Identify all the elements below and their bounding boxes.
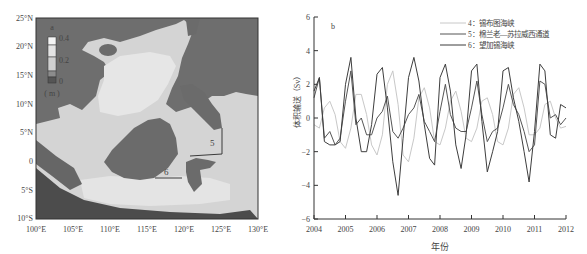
colorbar-upper	[48, 45, 56, 57]
legend-label-4: 4：锡布图海峡	[468, 18, 515, 28]
y-tick-label: 2	[306, 80, 310, 89]
colorbar-tick-0: 0	[59, 77, 63, 86]
lat-tick: 10°N	[16, 100, 33, 109]
colorbar-low	[48, 71, 56, 77]
y-axis-label: 体积输送（Sv）	[292, 72, 302, 128]
y-tick-label: 4	[306, 47, 310, 56]
series-lines	[314, 57, 566, 195]
y-tick-label: −4	[301, 181, 310, 190]
colorbar-unit: ( m )	[44, 89, 60, 98]
x-tick-label: 2010	[495, 225, 511, 234]
panel-b-label: b	[331, 22, 335, 31]
lon-tick: 125°E	[211, 225, 231, 234]
lon-tick: 130°E	[248, 225, 268, 234]
x-axis: 200420052006200720082009201020112012	[306, 215, 574, 234]
y-tick-label: −2	[301, 148, 310, 157]
lat-tick: 20°N	[16, 42, 33, 51]
x-tick-label: 2012	[558, 225, 574, 234]
colorbar-tick-0.4: 0.4	[59, 34, 69, 43]
colorbar-lowest	[48, 77, 56, 83]
x-tick-label: 2005	[338, 225, 354, 234]
y-tick-label: −6	[301, 215, 310, 224]
line-chart: 体积输送（Sv） 年份 b 6420−2−4−6 200420052006200…	[280, 0, 587, 254]
y-axis: 6420−2−4−6	[301, 13, 318, 224]
lat-tick: 10°S	[17, 214, 33, 223]
lat-tick: 5°N	[20, 128, 33, 137]
legend-label-6: 6：望加锡海峡	[468, 40, 515, 50]
legend-label-5: 5：棉兰老—苏拉威西通道	[468, 29, 550, 39]
x-axis-label: 年份	[431, 241, 449, 252]
map-svg: 5 6 a 0.4 0.2 0 ( m ) 25°N 20°N 15°N 10°…	[0, 0, 290, 254]
x-tick-label: 2006	[369, 225, 385, 234]
hainan	[99, 44, 117, 56]
colorbar-high	[48, 37, 56, 45]
lon-tick: 100°E	[26, 225, 46, 234]
legend: 4：锡布图海峡 5：棉兰老—苏拉威西通道 6：望加锡海峡	[440, 18, 550, 50]
lat-tick: 25°N	[16, 14, 33, 23]
map-panel: 5 6 a 0.4 0.2 0 ( m ) 25°N 20°N 15°N 10°…	[0, 0, 290, 254]
lat-tick: 5°S	[21, 186, 33, 195]
colorbar-tick-0.2: 0.2	[59, 56, 69, 65]
lon-tick: 115°E	[137, 225, 157, 234]
y-tick-label: 0	[306, 114, 310, 123]
y-tick-label: 6	[306, 13, 310, 22]
panel-a-label: a	[50, 23, 54, 32]
section-label-6: 6	[164, 167, 169, 177]
lon-tick: 110°E	[100, 225, 120, 234]
chart-panel: 体积输送（Sv） 年份 b 6420−2−4−6 200420052006200…	[280, 0, 587, 254]
lat-axis: 25°N 20°N 15°N 10°N 5°N 0 5°S 10°S	[16, 14, 33, 223]
sea-high-java	[80, 176, 230, 206]
lon-tick: 120°E	[174, 225, 194, 234]
x-tick-label: 2007	[401, 225, 417, 234]
section-label-5: 5	[210, 138, 215, 148]
x-tick-label: 2008	[432, 225, 448, 234]
colorbar-mid	[48, 57, 56, 71]
x-tick-label: 2011	[527, 225, 543, 234]
x-tick-label: 2009	[464, 225, 480, 234]
lon-tick: 105°E	[63, 225, 83, 234]
x-tick-label: 2004	[306, 225, 322, 234]
lat-tick: 15°N	[16, 71, 33, 80]
lon-axis: 100°E 105°E 110°E 115°E 120°E 125°E 130°…	[26, 225, 268, 234]
lat-tick: 0	[29, 157, 33, 166]
